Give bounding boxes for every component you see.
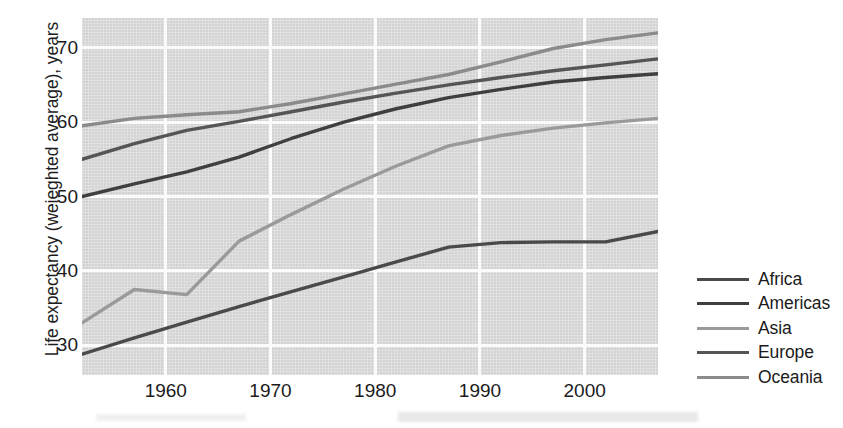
- y-tick-label: 70: [32, 37, 78, 59]
- legend-label: Oceania: [758, 367, 822, 388]
- legend-line-icon: [697, 376, 749, 379]
- series-line-europe: [82, 59, 658, 159]
- series-line-asia: [82, 118, 658, 323]
- y-tick-label: 40: [32, 260, 78, 282]
- x-tick-label: 1990: [445, 380, 515, 402]
- legend-line-icon: [697, 351, 749, 354]
- x-tick-label: 1970: [236, 380, 306, 402]
- legend-label: Africa: [758, 269, 802, 290]
- y-axis-tick-labels: 3040506070: [22, 18, 78, 375]
- legend-line-icon: [697, 278, 749, 281]
- legend-label: Asia: [758, 318, 792, 339]
- scan-artifact-right: [398, 412, 698, 422]
- legend-line-icon: [697, 327, 749, 330]
- legend-item-asia[interactable]: Asia: [697, 317, 792, 339]
- scan-artifact-left: [96, 414, 246, 421]
- y-tick-label: 30: [32, 334, 78, 356]
- y-tick-label: 60: [32, 111, 78, 133]
- legend-item-europe[interactable]: Europe: [697, 342, 814, 364]
- legend-line-icon: [697, 302, 749, 305]
- plot-area: [82, 18, 658, 375]
- x-tick-label: 1960: [131, 380, 201, 402]
- life-expectancy-line-chart: Life expectancy (weieghted average), yea…: [0, 0, 843, 428]
- legend-item-americas[interactable]: Americas: [697, 293, 830, 315]
- legend-label: Europe: [758, 342, 814, 363]
- x-axis-tick-labels: 19601970198019902000: [82, 380, 658, 410]
- x-tick-label: 2000: [550, 380, 620, 402]
- legend-item-oceania[interactable]: Oceania: [697, 366, 822, 388]
- x-tick-label: 1980: [340, 380, 410, 402]
- y-tick-label: 50: [32, 186, 78, 208]
- legend: AfricaAmericasAsiaEuropeOceania: [697, 268, 837, 392]
- legend-label: Americas: [758, 293, 830, 314]
- legend-item-africa[interactable]: Africa: [697, 268, 802, 290]
- series-lines: [82, 18, 658, 375]
